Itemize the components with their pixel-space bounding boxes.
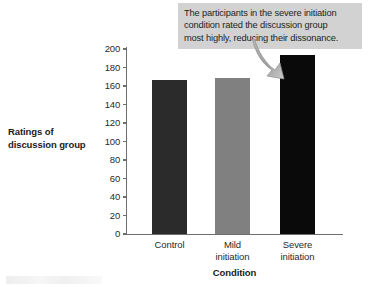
- category-label: Severeinitiation: [263, 239, 333, 262]
- category-label-line-1: Mild: [198, 239, 268, 251]
- category-label-line-2: initiation: [198, 251, 268, 263]
- callout-line-1: The participants in the severe initiatio…: [184, 7, 357, 19]
- scan-artifact: [6, 276, 102, 284]
- category-label-line-1: Control: [135, 239, 205, 251]
- bar-severe-initiation: [280, 55, 315, 234]
- category-label-line-2: initiation: [263, 251, 333, 263]
- category-label: Control: [135, 239, 205, 251]
- bar-mild-initiation: [215, 78, 250, 234]
- callout-arrow-icon: [247, 38, 307, 82]
- category-label-line-1: Severe: [263, 239, 333, 251]
- category-label: Mildinitiation: [198, 239, 268, 262]
- bar-control: [152, 80, 187, 234]
- callout-line-2: condition rated the discussion group: [184, 19, 357, 31]
- bar-chart-figure: Ratings of discussion group 020406080100…: [0, 0, 371, 287]
- x-axis-title: Condition: [127, 267, 342, 278]
